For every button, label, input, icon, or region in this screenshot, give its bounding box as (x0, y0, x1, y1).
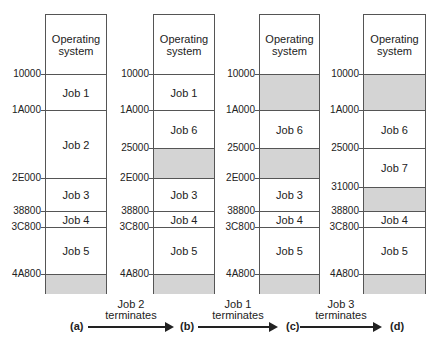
address-tick (41, 227, 46, 228)
transition-label: Job 3terminates (300, 299, 382, 321)
address-label: 3C800 (0, 222, 41, 232)
memory-segment: Job 5 (154, 227, 214, 274)
address-label: 1A000 (211, 105, 255, 115)
free-memory-block (260, 148, 319, 178)
address-tick (41, 110, 46, 111)
memory-segment: Job 4 (364, 211, 425, 227)
free-memory-block (364, 74, 425, 110)
memory-segment: Job 7 (364, 148, 425, 187)
address-tick (149, 274, 154, 275)
state-label-d: (d) (390, 320, 404, 332)
address-label: 3C800 (105, 222, 149, 232)
address-label: 31000 (315, 182, 359, 192)
address-tick (149, 227, 154, 228)
state-label-a: (a) (70, 320, 83, 332)
address-tick (359, 227, 364, 228)
address-label: 38800 (105, 206, 149, 216)
transition-verb: terminates (300, 310, 382, 321)
address-label: 4A800 (315, 269, 359, 279)
memory-segment: Job 3 (154, 178, 214, 211)
address-tick (255, 211, 260, 212)
address-label: 38800 (0, 206, 41, 216)
address-label: 4A800 (105, 269, 149, 279)
address-label: 10000 (315, 69, 359, 79)
transition-arrow (300, 326, 374, 328)
memory-segment: Job 4 (154, 211, 214, 227)
memory-segment: Job 2 (46, 110, 106, 178)
transition-verb: terminates (198, 310, 278, 321)
address-label: 1A000 (105, 105, 149, 115)
memory-segment: Job 1 (154, 74, 214, 110)
address-tick (255, 274, 260, 275)
free-memory-block (46, 274, 106, 294)
address-label: 1A000 (315, 105, 359, 115)
address-label: 10000 (211, 69, 255, 79)
free-memory-block (154, 274, 214, 294)
memory-segment: Job 5 (260, 227, 319, 274)
transition-arrow (198, 326, 270, 328)
address-tick (255, 74, 260, 75)
transition-label: Job 2terminates (88, 299, 174, 321)
arrow-head-icon (373, 322, 382, 332)
address-label: 2E000 (0, 173, 41, 183)
memory-segment: Job 3 (260, 178, 319, 211)
address-tick (255, 148, 260, 149)
address-tick (255, 110, 260, 111)
address-label: 38800 (315, 206, 359, 216)
transition-verb: terminates (88, 310, 174, 321)
memory-segment: Job 1 (46, 74, 106, 110)
memory-segment: Operating system (364, 14, 425, 74)
address-tick (255, 178, 260, 179)
address-label: 25000 (211, 143, 255, 153)
free-memory-block (260, 274, 319, 294)
state-label-b: (b) (180, 320, 194, 332)
address-tick (41, 274, 46, 275)
state-label-c: (c) (286, 320, 299, 332)
memory-segment: Operating system (46, 14, 106, 74)
memory-segment: Job 5 (364, 227, 425, 274)
address-label: 10000 (0, 69, 41, 79)
address-tick (255, 227, 260, 228)
address-tick (359, 211, 364, 212)
address-tick (359, 74, 364, 75)
address-tick (149, 211, 154, 212)
address-tick (41, 74, 46, 75)
arrow-head-icon (269, 322, 278, 332)
address-label: 25000 (315, 143, 359, 153)
transition-arrow (88, 326, 166, 328)
transition-label: Job 1terminates (198, 299, 278, 321)
address-label: 2E000 (211, 173, 255, 183)
memory-segment: Operating system (260, 14, 319, 74)
memory-segment: Job 6 (364, 110, 425, 148)
address-label: 10000 (105, 69, 149, 79)
address-label: 3C800 (315, 222, 359, 232)
address-tick (149, 148, 154, 149)
address-tick (41, 211, 46, 212)
address-tick (359, 110, 364, 111)
address-label: 4A800 (211, 269, 255, 279)
memory-segment: Job 5 (46, 227, 106, 274)
memory-column-a: Operating systemJob 1Job 2Job 3Job 4Job … (45, 14, 107, 294)
address-label: 2E000 (105, 173, 149, 183)
memory-column-b: Operating systemJob 1Job 6Job 3Job 4Job … (153, 14, 215, 294)
memory-segment: Job 4 (46, 211, 106, 227)
memory-segment: Operating system (154, 14, 214, 74)
address-tick (359, 148, 364, 149)
free-memory-block (364, 274, 425, 294)
memory-segment: Job 6 (154, 110, 214, 148)
memory-segment: Job 4 (260, 211, 319, 227)
address-label: 38800 (211, 206, 255, 216)
address-label: 25000 (105, 143, 149, 153)
address-tick (41, 178, 46, 179)
memory-segment: Job 3 (46, 178, 106, 211)
memory-segment: Job 6 (260, 110, 319, 148)
memory-column-d: Operating systemJob 6Job 7Job 4Job 5 (363, 14, 426, 294)
address-tick (359, 274, 364, 275)
memory-column-c: Operating systemJob 6Job 3Job 4Job 5 (259, 14, 320, 294)
free-memory-block (364, 187, 425, 211)
address-label: 3C800 (211, 222, 255, 232)
address-tick (149, 178, 154, 179)
address-label: 4A800 (0, 269, 41, 279)
address-tick (149, 110, 154, 111)
address-label: 1A000 (0, 105, 41, 115)
